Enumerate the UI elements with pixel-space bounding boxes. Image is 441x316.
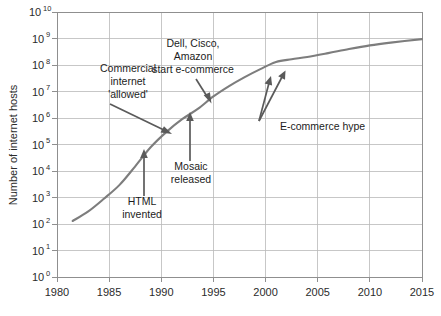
y-tick-marks <box>52 12 57 277</box>
y-tick-label: 10 7 <box>32 83 50 98</box>
y-tick-base: 10 <box>32 33 44 45</box>
annotation-line: HTML <box>128 195 157 207</box>
y-tick-label: 10 4 <box>32 163 50 178</box>
chart-root: 10 10 10 9 10 8 10 7 10 6 10 5 <box>0 0 441 316</box>
y-tick-label: 10 5 <box>32 136 50 151</box>
y-tick-base: 10 <box>32 192 44 204</box>
y-tick-base: 10 <box>32 245 44 257</box>
annotation-line: 'allowed' <box>108 88 148 100</box>
annotation-line: Amazon <box>174 50 213 62</box>
y-tick-labels: 10 10 10 9 10 8 10 7 10 6 10 5 <box>29 4 51 284</box>
y-tick-exponent: 0 <box>46 269 50 278</box>
y-axis-title: Number of internet hosts <box>7 84 19 205</box>
y-tick-base: 10 <box>32 218 44 230</box>
y-tick-label: 10 10 <box>29 4 51 19</box>
x-tick-label: 1995 <box>201 286 225 298</box>
y-tick-exponent: 7 <box>46 83 50 92</box>
x-tick-label: 2005 <box>305 286 329 298</box>
internet-hosts-line-chart: 10 10 10 9 10 8 10 7 10 6 10 5 <box>0 0 441 316</box>
annotation-line: Commercial <box>100 62 156 74</box>
y-tick-exponent: 5 <box>46 136 50 145</box>
y-tick-base: 10 <box>32 271 44 283</box>
y-tick-label: 10 9 <box>32 30 50 45</box>
y-tick-base: 10 <box>32 165 44 177</box>
y-tick-base: 10 <box>32 139 44 151</box>
x-tick-label: 2000 <box>253 286 277 298</box>
y-tick-exponent: 8 <box>46 57 50 66</box>
y-tick-label: 10 2 <box>32 216 50 231</box>
y-tick-label: 10 1 <box>32 242 50 257</box>
x-tick-label: 2015 <box>410 286 434 298</box>
y-tick-base: 10 <box>32 112 44 124</box>
y-tick-exponent: 6 <box>46 110 50 119</box>
y-tick-exponent: 2 <box>46 216 50 225</box>
annotation-line: released <box>171 173 211 185</box>
x-tick-label: 1990 <box>149 286 173 298</box>
y-tick-base: 10 <box>29 6 41 18</box>
y-tick-base: 10 <box>32 86 44 98</box>
annotation-line: internet <box>110 75 145 87</box>
annotation-line: Mosaic <box>174 160 207 172</box>
y-tick-exponent: 1 <box>46 242 50 251</box>
x-tick-label: 1985 <box>97 286 121 298</box>
y-tick-label: 10 0 <box>32 269 50 284</box>
y-tick-label: 10 6 <box>32 110 50 125</box>
annotation-line: Dell, Cisco, <box>166 37 219 49</box>
x-tick-labels: 1980 1985 1990 1995 2000 2005 2010 2015 <box>45 286 434 298</box>
x-tick-marks <box>57 277 422 282</box>
y-tick-exponent: 3 <box>46 189 50 198</box>
x-tick-label: 2010 <box>358 286 382 298</box>
y-tick-exponent: 4 <box>46 163 50 172</box>
y-tick-base: 10 <box>32 59 44 71</box>
y-tick-exponent: 10 <box>43 4 51 13</box>
annotation-line: invented <box>122 208 162 220</box>
y-tick-label: 10 8 <box>32 57 50 72</box>
annotation-line: start e-commerce <box>152 63 234 75</box>
x-tick-label: 1980 <box>45 286 69 298</box>
y-tick-exponent: 9 <box>46 30 50 39</box>
y-tick-label: 10 3 <box>32 189 50 204</box>
annotation-line: E-commerce hype <box>280 120 365 132</box>
